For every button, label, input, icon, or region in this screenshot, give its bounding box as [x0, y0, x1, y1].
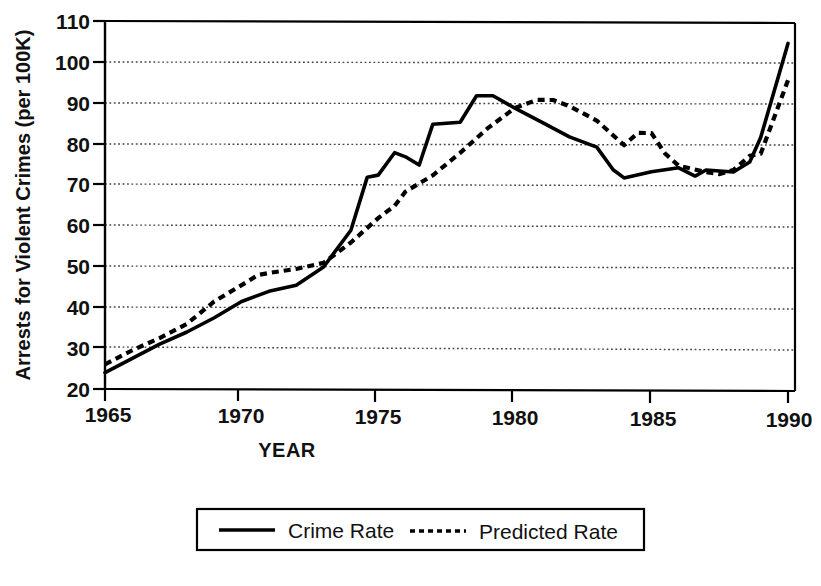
- y-tick-label-30: 30: [67, 337, 90, 360]
- chart-background: [0, 0, 821, 586]
- legend-label-predicted-rate: Predicted Rate: [479, 520, 618, 543]
- y-tick-label-40: 40: [67, 296, 90, 319]
- chart-figure: Arrests for Violent Crimes (per 100K): [0, 0, 821, 586]
- y-tick-label-70: 70: [67, 173, 90, 196]
- line-chart: Arrests for Violent Crimes (per 100K): [0, 0, 821, 586]
- y-axis-title: Arrests for Violent Crimes (per 100K): [12, 30, 34, 381]
- y-tick-label-110: 110: [56, 10, 90, 33]
- y-tick-label-90: 90: [67, 92, 90, 115]
- chart-legend: Crime Rate Predicted Rate: [197, 509, 644, 550]
- y-tick-label-20: 20: [67, 378, 90, 401]
- x-axis-title: YEAR: [258, 439, 316, 461]
- x-tick-label-1970: 1970: [218, 404, 265, 427]
- x-tick-label-1965: 1965: [85, 403, 132, 426]
- y-tick-label-100: 100: [55, 51, 90, 74]
- x-tick-label-1985: 1985: [630, 407, 677, 430]
- x-tick-label-1975: 1975: [355, 405, 402, 428]
- y-tick-label-60: 60: [67, 214, 90, 237]
- y-tick-label-80: 80: [67, 133, 90, 156]
- y-tick-label-50: 50: [67, 255, 90, 278]
- x-tick-label-1990: 1990: [766, 408, 813, 431]
- legend-label-crime-rate: Crime Rate: [288, 519, 394, 542]
- x-tick-label-1980: 1980: [492, 406, 539, 429]
